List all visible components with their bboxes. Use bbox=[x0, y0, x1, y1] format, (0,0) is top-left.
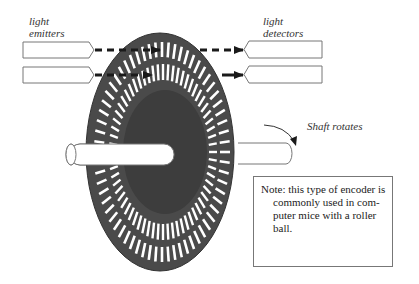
shaft-front bbox=[66, 144, 174, 165]
emitters-label-line1: light bbox=[29, 15, 64, 27]
rotation-arrow-icon bbox=[264, 125, 294, 141]
note-box: Note: this type of encoder is commonly u… bbox=[253, 176, 393, 267]
shaft-rotates-label: Shaft rotates bbox=[307, 120, 363, 132]
note-line: Note: this type of encoder is bbox=[261, 183, 386, 196]
light-emitter-2 bbox=[23, 67, 94, 83]
light-emitter-1 bbox=[23, 42, 94, 58]
detectors-label-line1: light bbox=[263, 15, 303, 27]
light-detector-2 bbox=[244, 66, 322, 83]
note-line: puter mice with a roller bbox=[261, 209, 386, 222]
shaft-right bbox=[238, 143, 292, 164]
note-line: commonly used in com- bbox=[261, 196, 386, 209]
detectors-label-line2: detectors bbox=[263, 27, 303, 39]
note-line: ball. bbox=[261, 222, 386, 235]
light-detector-1 bbox=[244, 41, 322, 58]
detectors-label: light detectors bbox=[263, 15, 303, 39]
emitters-label-line2: emitters bbox=[29, 27, 64, 39]
emitters-label: light emitters bbox=[29, 15, 64, 39]
